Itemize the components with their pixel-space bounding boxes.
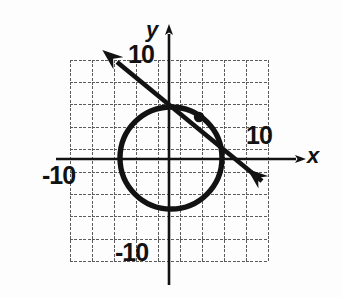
x-axis-name-label: x xyxy=(307,145,319,167)
y-axis-tick-label-10: 10 xyxy=(128,42,154,67)
intersection-point-marker xyxy=(194,112,204,122)
x-axis-tick-label-negative-10: -10 xyxy=(42,163,75,188)
x-axis-tick-label-10: 10 xyxy=(246,123,272,148)
y-axis-name-label: y xyxy=(146,19,158,41)
coordinate-plane-svg xyxy=(0,0,342,297)
y-axis-tick-label-negative-10: -10 xyxy=(115,240,148,265)
math-figure: 10 10 -10 -10 y x xyxy=(0,0,342,297)
